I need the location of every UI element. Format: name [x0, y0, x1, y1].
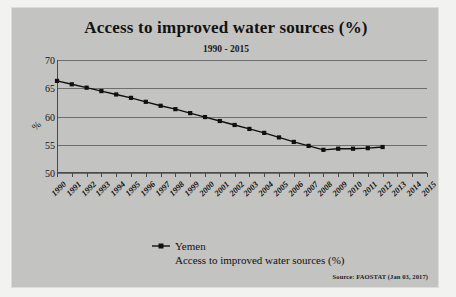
data-point-marker [277, 135, 281, 139]
y-axis-tick-label: 70 [15, 55, 55, 66]
x-axis-tick [175, 173, 176, 177]
data-point-marker [336, 147, 340, 151]
legend-label-country: Yemen [175, 240, 206, 252]
data-point-marker [144, 100, 148, 104]
x-axis-tick [161, 173, 162, 177]
data-point-marker [188, 111, 192, 115]
plot-area: 5055606570 19901991199219931994199519961… [57, 60, 427, 173]
x-axis-tick [131, 173, 132, 177]
data-point-marker [292, 140, 296, 144]
x-axis-tick [264, 173, 265, 177]
x-axis-tick [383, 173, 384, 177]
x-axis-tick [427, 173, 428, 177]
source-note: Source: FAOSTAT (Jan 03, 2017) [333, 273, 428, 280]
y-axis-tick-label: 50 [15, 168, 55, 179]
x-axis-tick [190, 173, 191, 177]
data-point-marker [381, 145, 385, 149]
x-axis-tick [309, 173, 310, 177]
chart-panel: Access to improved water sources (%) 199… [11, 7, 439, 288]
x-axis-tick-label: 2015 [419, 179, 438, 198]
x-axis-tick [57, 173, 58, 177]
gridline [57, 173, 427, 174]
data-point-marker [366, 146, 370, 150]
data-point-marker [173, 107, 177, 111]
data-point-marker [55, 79, 59, 83]
x-axis-tick [87, 173, 88, 177]
data-point-marker [321, 148, 325, 152]
data-point-marker [85, 86, 89, 90]
legend: Yemen Access to improved water sources (… [152, 240, 345, 266]
x-axis-tick [116, 173, 117, 177]
data-point-marker [218, 119, 222, 123]
y-axis-tick-label: 65 [15, 83, 55, 94]
screenshot-root: Access to improved water sources (%) 199… [0, 0, 456, 297]
series-line [57, 81, 383, 150]
legend-label-metric: Access to improved water sources (%) [175, 254, 345, 266]
data-point-marker [114, 92, 118, 96]
series-yemen [57, 60, 427, 173]
legend-marker-icon [152, 242, 170, 250]
y-axis-tick-label: 55 [15, 139, 55, 150]
legend-item-yemen: Yemen [152, 240, 345, 252]
x-axis-tick [205, 173, 206, 177]
x-axis-tick [249, 173, 250, 177]
x-axis-tick [146, 173, 147, 177]
data-point-marker [129, 96, 133, 100]
y-axis-tick-label: 60 [15, 111, 55, 122]
data-point-marker [247, 127, 251, 131]
data-point-marker [307, 144, 311, 148]
x-axis-tick [101, 173, 102, 177]
data-point-marker [203, 115, 207, 119]
data-point-marker [351, 147, 355, 151]
chart-title: Access to improved water sources (%) [12, 18, 440, 38]
x-axis-tick [397, 173, 398, 177]
x-axis-tick [72, 173, 73, 177]
x-axis-tick [338, 173, 339, 177]
x-axis-tick [279, 173, 280, 177]
x-axis-tick [368, 173, 369, 177]
x-axis-tick [353, 173, 354, 177]
data-point-marker [233, 123, 237, 127]
data-point-marker [262, 131, 266, 135]
x-axis-tick [412, 173, 413, 177]
chart-subtitle: 1990 - 2015 [12, 44, 440, 54]
x-axis-tick [220, 173, 221, 177]
data-point-marker [159, 104, 163, 108]
x-axis-tick [235, 173, 236, 177]
data-point-marker [70, 82, 74, 86]
data-point-marker [99, 89, 103, 93]
x-axis-tick [323, 173, 324, 177]
x-axis-tick [294, 173, 295, 177]
